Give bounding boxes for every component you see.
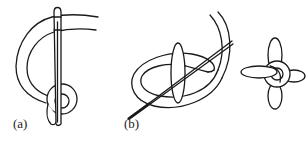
thread-b-upper-right <box>218 12 230 78</box>
panel-label-a: (a) <box>13 117 27 130</box>
finished-knot <box>241 38 305 109</box>
thread-b-end <box>208 70 214 72</box>
knot-petal-left <box>241 66 277 78</box>
panel-label-b: (b) <box>124 117 139 130</box>
knot-diagram <box>0 0 308 141</box>
thread-b-upper-left <box>210 15 222 70</box>
panel-a-illustration <box>16 8 98 126</box>
panel-b-illustration <box>128 12 233 119</box>
thread-b-oval <box>171 43 185 103</box>
